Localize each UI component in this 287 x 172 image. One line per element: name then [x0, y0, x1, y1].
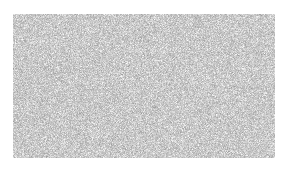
- noise-texture-swatch: [13, 14, 275, 158]
- image-canvas: [0, 0, 287, 172]
- noise-texture-surface: [13, 14, 275, 158]
